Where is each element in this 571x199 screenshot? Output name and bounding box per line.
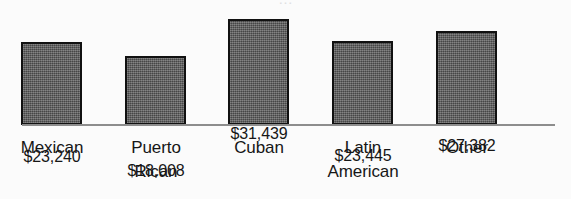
category-axis-labels: Mexican PuertoRican Cuban LatinAmerican … bbox=[0, 136, 571, 199]
bar bbox=[21, 42, 82, 125]
bar-chart: … $23,240 $18,008 $31,439 $23,445 $27,38… bbox=[0, 0, 571, 199]
category-label-line: Other bbox=[399, 136, 535, 160]
category-label-line: Rican bbox=[88, 160, 224, 184]
bar bbox=[436, 31, 497, 125]
plot-area: $23,240 $18,008 $31,439 $23,445 $27,382 bbox=[0, 0, 571, 127]
category-label-other: Other bbox=[399, 136, 535, 160]
bar bbox=[332, 41, 393, 125]
bar bbox=[228, 19, 289, 125]
category-label-line: American bbox=[295, 160, 431, 184]
x-axis-line bbox=[22, 124, 555, 126]
bar bbox=[125, 56, 186, 125]
